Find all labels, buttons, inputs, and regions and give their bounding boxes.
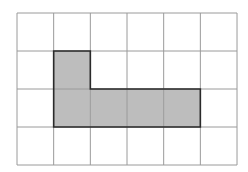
shaded-cell: [164, 89, 201, 127]
shaded-cell: [127, 89, 164, 127]
shaded-cell: [54, 89, 91, 127]
grid-diagram: [0, 0, 248, 172]
shaded-cell: [54, 51, 91, 89]
shaded-cell: [90, 89, 127, 127]
